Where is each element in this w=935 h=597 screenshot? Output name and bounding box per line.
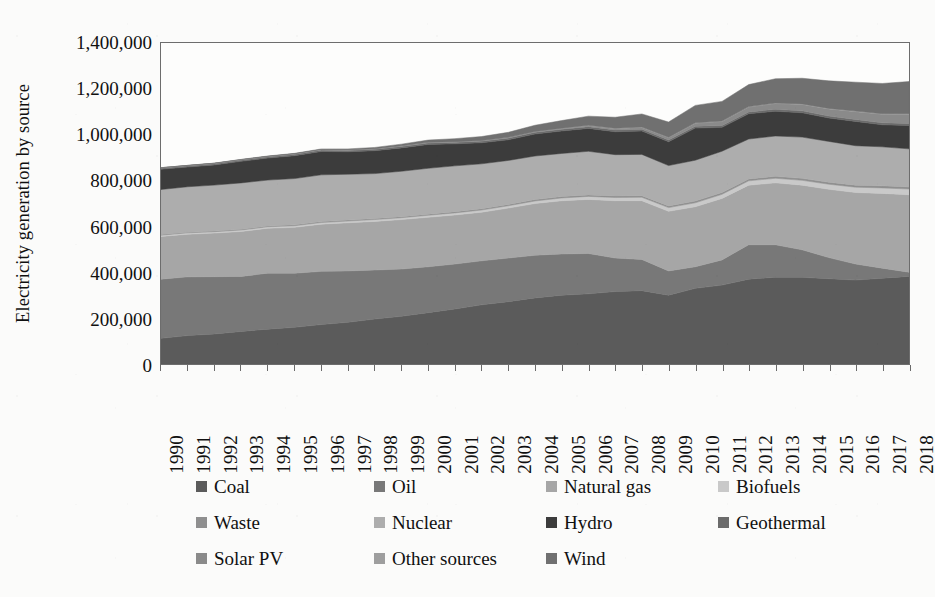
y-tick-label: 1,000,000 (32, 125, 152, 144)
x-tick-mark (187, 365, 188, 371)
plot-area (160, 42, 910, 365)
legend-label: Wind (564, 549, 605, 568)
x-tick-mark (321, 365, 322, 371)
x-tick-mark (723, 365, 724, 371)
x-tick-mark (910, 365, 911, 371)
legend-label: Solar PV (214, 549, 283, 568)
legend-swatch-icon (374, 553, 385, 564)
x-tick-mark (214, 365, 215, 371)
x-tick-mark (535, 365, 536, 371)
legend-swatch-icon (196, 481, 207, 492)
legend-swatch-icon (718, 481, 729, 492)
x-tick-mark (830, 365, 831, 371)
y-tick-label: 200,000 (32, 309, 152, 328)
x-tick-mark (428, 365, 429, 371)
x-tick-mark (615, 365, 616, 371)
y-axis-tick-labels: 0200,000400,000600,000800,0001,000,0001,… (30, 0, 152, 597)
legend-swatch-icon (196, 517, 207, 528)
x-tick-mark (240, 365, 241, 371)
legend-label: Coal (214, 477, 250, 496)
x-tick-mark (589, 365, 590, 371)
x-tick-mark (455, 365, 456, 371)
legend-swatch-icon (196, 553, 207, 564)
legend-item[interactable]: Wind (546, 549, 718, 568)
legend-swatch-icon (374, 517, 385, 528)
legend-label: Waste (214, 513, 260, 532)
legend-item[interactable]: Solar PV (196, 549, 374, 568)
y-tick-label: 1,400,000 (32, 33, 152, 52)
y-tick-label: 1,200,000 (32, 79, 152, 98)
legend-swatch-icon (546, 481, 557, 492)
x-tick-mark (348, 365, 349, 371)
x-tick-mark (374, 365, 375, 371)
legend-item[interactable]: Nuclear (374, 513, 546, 532)
x-tick-label: 1990 (167, 435, 186, 474)
legend-item[interactable]: Natural gas (546, 477, 718, 496)
legend-label: Other sources (392, 549, 497, 568)
x-tick-mark (749, 365, 750, 371)
x-axis-ticks (160, 365, 910, 373)
legend-item[interactable]: Other sources (374, 549, 546, 568)
legend-label: Nuclear (392, 513, 452, 532)
x-tick-mark (160, 365, 161, 371)
y-tick-label: 0 (32, 356, 152, 375)
chart-legend: CoalOilNatural gasBiofuelsWasteNuclearHy… (196, 468, 896, 576)
legend-item[interactable]: Waste (196, 513, 374, 532)
y-tick-label: 600,000 (32, 217, 152, 236)
legend-item[interactable]: Biofuels (718, 477, 896, 496)
x-tick-mark (803, 365, 804, 371)
legend-label: Oil (392, 477, 416, 496)
x-tick-mark (776, 365, 777, 371)
stacked-area-chart: Electricity generation by source 0200,00… (0, 0, 935, 597)
x-tick-mark (696, 365, 697, 371)
legend-swatch-icon (546, 553, 557, 564)
x-tick-mark (508, 365, 509, 371)
stacked-area-series-group (161, 43, 909, 364)
y-tick-label: 800,000 (32, 171, 152, 190)
legend-swatch-icon (718, 517, 729, 528)
legend-swatch-icon (374, 481, 385, 492)
x-tick-mark (267, 365, 268, 371)
x-tick-mark (562, 365, 563, 371)
x-tick-mark (642, 365, 643, 371)
x-axis-tick-labels: 1990199119921993199419951996199719981999… (160, 373, 910, 453)
x-tick-mark (856, 365, 857, 371)
legend-label: Natural gas (564, 477, 651, 496)
x-tick-mark (481, 365, 482, 371)
x-tick-mark (883, 365, 884, 371)
x-tick-label: 2018 (917, 435, 935, 474)
legend-swatch-icon (546, 517, 557, 528)
x-tick-mark (401, 365, 402, 371)
y-tick-label: 400,000 (32, 263, 152, 282)
legend-label: Hydro (564, 513, 613, 532)
x-tick-mark (669, 365, 670, 371)
legend-label: Geothermal (736, 513, 826, 532)
legend-item[interactable]: Geothermal (718, 513, 896, 532)
legend-item[interactable]: Oil (374, 477, 546, 496)
legend-item[interactable]: Hydro (546, 513, 718, 532)
legend-item[interactable]: Coal (196, 477, 374, 496)
legend-label: Biofuels (736, 477, 800, 496)
x-tick-mark (294, 365, 295, 371)
